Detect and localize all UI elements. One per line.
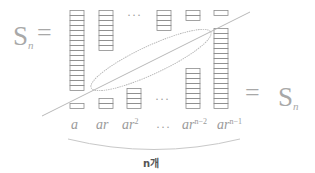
left-equals-sign: = <box>37 18 52 48</box>
column-cell <box>99 104 113 109</box>
sum-subscript: n <box>28 39 34 51</box>
column-cell <box>214 59 228 64</box>
column-cell <box>186 69 200 74</box>
column-cell <box>186 84 200 89</box>
column-cell <box>214 69 228 74</box>
column-cell <box>214 89 228 94</box>
column-cell <box>157 16 171 21</box>
column-cell <box>99 36 113 41</box>
sum-symbol: S <box>13 21 28 51</box>
column-cell <box>214 104 228 109</box>
column-cell <box>70 51 84 56</box>
column-cell <box>70 21 84 26</box>
column-cell <box>70 11 84 16</box>
column-cell <box>70 31 84 36</box>
column-cell <box>99 99 113 104</box>
column-cell <box>70 61 84 66</box>
count-brace-arc <box>68 139 240 150</box>
term-count-label: n개 <box>143 155 159 170</box>
diagonal-divider-line <box>42 12 250 116</box>
column-cell <box>214 99 228 104</box>
column-cell <box>214 79 228 84</box>
column-cell <box>127 104 141 109</box>
column-cell <box>214 64 228 69</box>
bottom-column-6 <box>214 29 228 109</box>
top-column-1 <box>70 11 84 91</box>
column-cell <box>99 41 113 46</box>
column-cell <box>127 99 141 104</box>
top-column-2 <box>99 11 113 51</box>
column-cell <box>99 11 113 16</box>
column-cell <box>186 74 200 79</box>
column-cell <box>99 31 113 36</box>
column-cell <box>70 41 84 46</box>
right-equals-sign: = <box>245 78 260 108</box>
column-cell <box>70 71 84 76</box>
column-cell <box>70 36 84 41</box>
column-cell <box>214 54 228 59</box>
term-ellipsis: ··· <box>156 120 171 135</box>
bottom-column-1 <box>70 104 84 109</box>
column-cell <box>127 94 141 99</box>
left-sum-label: Sn <box>13 21 34 52</box>
column-cell <box>70 26 84 31</box>
bottom-ellipsis: ··· <box>155 92 170 107</box>
column-cell <box>186 94 200 99</box>
column-cell <box>214 49 228 54</box>
column-cell <box>157 21 171 26</box>
term-ar-n-minus-1: arn−1 <box>217 117 242 133</box>
column-cell <box>70 104 84 109</box>
column-cell <box>214 44 228 49</box>
right-sum-label: Sn <box>278 82 299 113</box>
column-cell <box>70 16 84 21</box>
term-ar: ar <box>96 117 108 133</box>
column-cell <box>214 84 228 89</box>
column-cell <box>70 81 84 86</box>
term-ar-squared: ar2 <box>122 117 138 133</box>
column-cell <box>186 104 200 109</box>
column-cell <box>214 74 228 79</box>
bottom-column-stacks <box>70 29 228 109</box>
sum-subscript: n <box>293 100 299 112</box>
column-cell <box>70 76 84 81</box>
term-a: a <box>71 117 78 133</box>
column-cell <box>214 11 228 16</box>
top-column-stacks <box>70 11 228 91</box>
column-cell <box>99 16 113 21</box>
column-cell <box>99 21 113 26</box>
column-cell <box>186 99 200 104</box>
column-cell <box>70 56 84 61</box>
top-column-5 <box>186 11 200 21</box>
column-cell <box>157 11 171 16</box>
bottom-column-3 <box>127 89 141 109</box>
bottom-column-2 <box>99 99 113 109</box>
top-ellipsis: ··· <box>127 8 142 23</box>
column-cell <box>70 86 84 91</box>
column-cell <box>186 79 200 84</box>
column-cell <box>214 34 228 39</box>
column-cell <box>157 26 171 31</box>
column-cell <box>99 46 113 51</box>
top-column-4 <box>157 11 171 31</box>
column-cell <box>186 16 200 21</box>
column-cell <box>70 66 84 71</box>
column-cell <box>127 89 141 94</box>
column-cell <box>70 46 84 51</box>
bottom-column-5 <box>186 69 200 109</box>
column-cell <box>186 11 200 16</box>
column-cell <box>99 26 113 31</box>
column-cell <box>214 39 228 44</box>
top-column-6 <box>214 11 228 16</box>
column-cell <box>186 89 200 94</box>
term-ar-n-minus-2: arn−2 <box>182 117 207 133</box>
column-cell <box>214 94 228 99</box>
sum-symbol: S <box>278 82 293 112</box>
